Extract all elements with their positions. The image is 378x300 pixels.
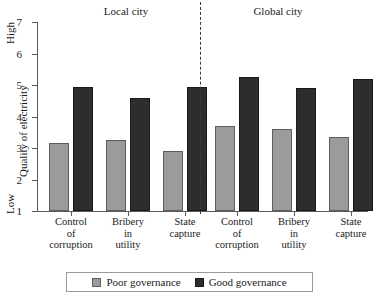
y-tick-2 (32, 180, 37, 181)
legend-entry-good: Good governance (195, 276, 287, 288)
y-axis-line (37, 22, 38, 211)
bar-global-control-poor (215, 126, 235, 211)
x-label-line: in (262, 228, 326, 240)
x-axis-line (37, 211, 368, 212)
bar-global-control-good (239, 77, 259, 211)
x-label-line: of (39, 228, 103, 240)
x-label-line: Bribery (96, 216, 160, 228)
legend-entry-poor: Poor governance (92, 276, 180, 288)
x-label-line: State (319, 216, 378, 228)
x-label-global-bribery: Bribery in utility (262, 216, 326, 251)
x-label-line: Bribery (262, 216, 326, 228)
x-label-global-control: Control of corruption (205, 216, 269, 251)
y-tick-label-1: 1 (8, 206, 22, 216)
bar-local-bribery-good (130, 98, 150, 211)
panel-title-global: Global city (228, 5, 328, 17)
plot-area: 7 6 5 4 3 2 1 (37, 22, 368, 211)
y-tick-label-4: 4 (8, 112, 22, 122)
y-tick-4 (32, 117, 37, 118)
bar-local-capture-good (187, 87, 207, 211)
x-label-line: in (96, 228, 160, 240)
bar-local-control-good (73, 87, 93, 211)
x-label-local-bribery: Bribery in utility (96, 216, 160, 251)
legend-label-poor: Poor governance (106, 276, 180, 288)
panel-divider (200, 2, 201, 214)
legend-swatch-good-icon (195, 278, 204, 287)
x-label-local-control: Control of corruption (39, 216, 103, 251)
x-label-global-capture: State capture (319, 216, 378, 239)
bar-local-bribery-poor (106, 140, 126, 211)
bar-global-capture-poor (329, 137, 349, 211)
legend-swatch-poor-icon (92, 278, 101, 287)
bar-global-bribery-good (296, 88, 316, 211)
x-label-line: capture (319, 228, 378, 240)
bar-local-control-poor (49, 143, 69, 211)
y-tick-label-2: 2 (8, 175, 22, 185)
x-label-line: utility (262, 239, 326, 251)
y-tick-7 (32, 22, 37, 23)
y-tick-label-5: 5 (8, 80, 22, 90)
y-tick-label-3: 3 (8, 143, 22, 153)
x-label-line: Control (39, 216, 103, 228)
y-tick-label-6: 6 (8, 49, 22, 59)
chart-legend: Poor governance Good governance (66, 272, 313, 292)
y-tick-label-7: 7 (8, 17, 22, 27)
x-label-line: of (205, 228, 269, 240)
x-label-line: Control (205, 216, 269, 228)
x-label-line: corruption (39, 239, 103, 251)
y-tick-5 (32, 85, 37, 86)
y-tick-1 (32, 211, 37, 212)
x-label-line: utility (96, 239, 160, 251)
bar-local-capture-poor (163, 151, 183, 211)
legend-label-good: Good governance (209, 276, 287, 288)
panel-title-local: Local city (76, 5, 176, 17)
chart-figure: Local city Global city High Low Quality … (0, 0, 378, 300)
y-axis-title: Quality of electricity (17, 85, 29, 177)
bar-global-capture-good (353, 79, 373, 211)
bar-global-bribery-poor (272, 129, 292, 211)
y-tick-6 (32, 54, 37, 55)
y-tick-3 (32, 148, 37, 149)
x-label-line: corruption (205, 239, 269, 251)
